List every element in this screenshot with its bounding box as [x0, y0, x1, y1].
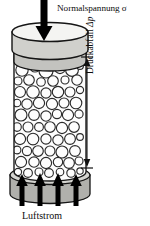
particle [56, 146, 68, 158]
particle [53, 157, 62, 166]
particle [45, 169, 54, 178]
particle [35, 168, 43, 176]
particle [45, 122, 56, 133]
particle [67, 169, 75, 177]
particle [22, 99, 32, 109]
particle [41, 88, 51, 98]
airflow-arrow-shaft-4 [74, 184, 79, 206]
particle [69, 122, 80, 133]
particle [41, 111, 51, 121]
particle [70, 146, 81, 157]
particle [59, 98, 69, 108]
particle [27, 86, 40, 99]
diagram-canvas [0, 0, 150, 226]
particle [14, 133, 25, 144]
particle [29, 157, 39, 167]
airflow-label: Luftstrom [22, 211, 62, 221]
particle [75, 110, 83, 118]
pressure-drop-text: Druckabfall [85, 27, 95, 74]
particle [77, 134, 84, 141]
particle [24, 169, 33, 178]
particle [33, 146, 44, 157]
packed-bed-diagram: Normalspannung σ Druckabfall Δp Luftstro… [0, 0, 150, 226]
particle [77, 168, 83, 174]
particle [37, 78, 46, 87]
particle [15, 156, 26, 167]
particle [45, 146, 55, 156]
load-arrow-shaft [41, 0, 48, 29]
particle [65, 134, 76, 145]
particle [65, 87, 75, 97]
cap-top-face [12, 23, 88, 42]
particle [61, 76, 69, 84]
particle [70, 97, 82, 109]
particle [62, 109, 73, 120]
normal-stress-label: Normalspannung σ [57, 4, 127, 13]
particle [46, 98, 57, 109]
particle [24, 75, 35, 86]
pressure-drop-symbol: Δp [85, 17, 95, 27]
particle [48, 76, 59, 87]
particle [41, 134, 51, 144]
particle [75, 157, 83, 165]
airflow-arrow-shaft-1 [20, 184, 25, 206]
particle [56, 122, 67, 133]
particle [52, 109, 61, 118]
pressure-drop-label: Druckabfall Δp [86, 17, 95, 74]
particle [23, 122, 33, 132]
particle [52, 86, 63, 97]
particle [33, 97, 44, 108]
particle [40, 157, 51, 168]
particle [64, 158, 75, 169]
particle [29, 110, 40, 121]
particle [76, 86, 83, 93]
particle [14, 77, 22, 85]
particle [15, 87, 26, 98]
particle [72, 75, 82, 85]
airflow-arrow-shaft-3 [56, 184, 61, 206]
particle [15, 109, 27, 121]
particle [35, 123, 44, 132]
particle [53, 135, 63, 145]
particle [27, 133, 39, 145]
airflow-arrow-shaft-2 [38, 184, 43, 206]
particle [22, 146, 31, 155]
